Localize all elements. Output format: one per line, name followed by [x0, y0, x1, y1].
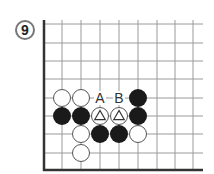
- black-stone: [72, 107, 90, 125]
- point-label-b: B: [114, 90, 123, 106]
- white-stone: [73, 145, 90, 162]
- white-stone-icon: [73, 145, 90, 162]
- white-stone: [111, 108, 128, 125]
- point-label-a: A: [95, 90, 105, 106]
- white-stone: [54, 90, 71, 107]
- white-stone: [73, 126, 90, 143]
- black-stone-icon: [91, 125, 109, 143]
- black-stone-icon: [129, 89, 147, 107]
- white-stone: [130, 126, 147, 143]
- black-stone: [110, 125, 128, 143]
- white-stone-icon: [73, 90, 90, 107]
- problem-number: 9: [21, 22, 29, 38]
- black-stone-icon: [53, 107, 71, 125]
- black-stone: [129, 107, 147, 125]
- black-stone-icon: [129, 107, 147, 125]
- black-stone: [91, 125, 109, 143]
- black-stone-icon: [72, 107, 90, 125]
- problem-number-badge: 9: [16, 21, 34, 39]
- white-stone: [92, 108, 109, 125]
- go-board-diagram: 9 AB: [0, 0, 214, 174]
- white-stone: [73, 90, 90, 107]
- white-stone-icon: [54, 90, 71, 107]
- white-stone-icon: [73, 126, 90, 143]
- black-stone: [53, 107, 71, 125]
- black-stone: [129, 89, 147, 107]
- black-stone-icon: [110, 125, 128, 143]
- white-stone-icon: [130, 126, 147, 143]
